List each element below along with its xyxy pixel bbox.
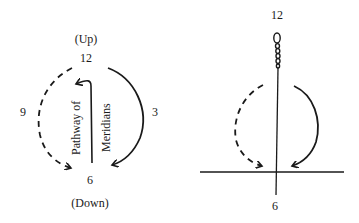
dashed-arc-arrow [235,85,263,166]
clock-3-label: 3 [152,106,158,118]
down-label: (Down) [71,197,108,209]
clock-6-label: 6 [272,200,278,212]
clock-12-label: 12 [271,9,283,21]
clock-12-label: 12 [80,52,92,64]
needle-shaft [276,68,278,195]
right-diagram [200,33,344,195]
needle-handle-icon [274,33,280,68]
dashed-arc-arrow [39,68,72,168]
solid-arc-arrow [292,86,318,166]
up-label: (Up) [75,33,98,45]
diagram-canvas [0,0,359,223]
meridians-text: Meridians [100,103,112,152]
solid-arc-arrow [108,68,143,165]
clock-9-label: 9 [20,106,26,118]
left-diagram [39,68,143,168]
clock-6-label: 6 [87,174,93,186]
pathway-of-text: Pathway of [70,101,82,155]
